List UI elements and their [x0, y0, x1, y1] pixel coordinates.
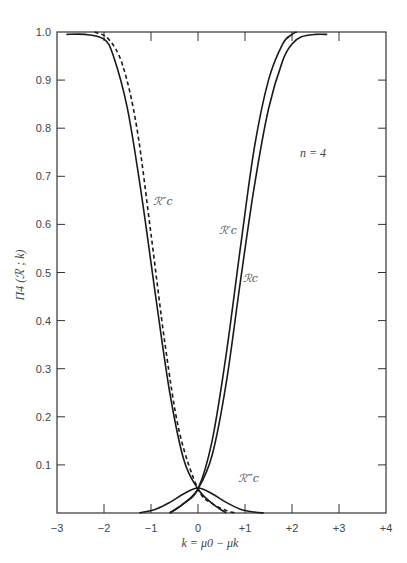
y-tick-label: 0.8: [36, 122, 51, 134]
x-tick-label: −3: [51, 522, 64, 534]
series-curve: [95, 32, 236, 513]
series-curve: [66, 34, 226, 513]
y-tick-label: 0.6: [36, 218, 51, 230]
x-tick-label: −1: [145, 522, 158, 534]
y-axis-label: Π4 (ℛ ; k): [13, 250, 27, 302]
y-tick-label: 0.4: [36, 315, 51, 327]
labels: −3−2−10+1+2+3+40.10.20.30.40.50.60.70.80…: [13, 26, 392, 550]
x-axis-label: k = μ0 − μk: [182, 536, 240, 550]
x-tick-label: −2: [98, 522, 111, 534]
y-tick-label: 0.2: [36, 411, 51, 423]
x-tick-label: 0: [195, 522, 201, 534]
y-tick-label: 0.3: [36, 363, 51, 375]
x-tick-label: +4: [380, 522, 393, 534]
curve-label: ℛ″c: [153, 195, 172, 208]
series-curve: [170, 32, 297, 513]
y-tick-label: 0.5: [36, 267, 51, 279]
curve-label: ℛc: [243, 272, 258, 285]
curves: [66, 32, 327, 513]
plot-frame: [57, 32, 386, 513]
plot-border: [57, 32, 386, 513]
curve-label: ℛ′c: [219, 224, 237, 237]
y-tick-label: 0.9: [36, 74, 51, 86]
chart: −3−2−10+1+2+3+40.10.20.30.40.50.60.70.80…: [0, 0, 407, 563]
x-tick-label: +3: [333, 522, 346, 534]
x-tick-label: +2: [286, 522, 299, 534]
x-tick-label: +1: [239, 522, 252, 534]
y-tick-label: 1.0: [36, 26, 51, 38]
y-tick-label: 0.1: [36, 459, 51, 471]
tick-marks: [57, 32, 386, 513]
n-annotation: n = 4: [300, 146, 326, 160]
y-tick-label: 0.7: [36, 170, 51, 182]
curve-label: ℛ‴c: [238, 472, 259, 485]
